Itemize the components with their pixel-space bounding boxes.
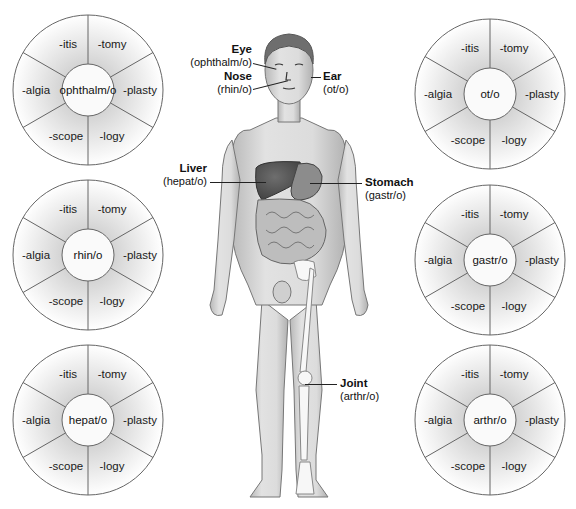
liver-leader-line (210, 182, 266, 183)
wheel-root: gastr/o (472, 254, 507, 266)
callout-ear-name: Ear (323, 70, 349, 83)
suffix-logy: -logy (502, 300, 527, 312)
suffix-logy: -logy (100, 295, 125, 307)
word-wheel-ear: -itis -tomy -algia -plasty -scope -logy … (414, 18, 566, 170)
suffix-algia: -algia (22, 84, 50, 96)
suffix-scope: -scope (451, 460, 486, 472)
wheel-root: arthr/o (473, 414, 506, 426)
wheel-root: hepat/o (69, 414, 107, 426)
callout-ear-root: (ot/o) (323, 83, 349, 96)
suffix-tomy: -tomy (500, 368, 529, 380)
suffix-plasty: -plasty (123, 414, 157, 426)
suffix-algia: -algia (22, 249, 50, 261)
suffix-logy: -logy (502, 460, 527, 472)
callout-eye-name: Eye (190, 43, 252, 56)
suffix-tomy: -tomy (98, 38, 127, 50)
suffix-itis: -itis (59, 368, 77, 380)
suffix-itis: -itis (461, 208, 479, 220)
callout-eye: Eye (ophthalm/o) (190, 43, 252, 69)
suffix-itis: -itis (461, 368, 479, 380)
suffix-itis: -itis (59, 203, 77, 215)
suffix-scope: -scope (49, 130, 84, 142)
callout-liver-name: Liver (163, 162, 207, 175)
suffix-logy: -logy (502, 134, 527, 146)
callout-nose-name: Nose (217, 70, 252, 83)
word-wheel-joint: -itis -tomy -algia -plasty -scope -logy … (414, 344, 566, 496)
suffix-algia: -algia (22, 414, 50, 426)
callout-stomach-root: (gastr/o) (365, 189, 414, 202)
suffix-tomy: -tomy (500, 208, 529, 220)
suffix-scope: -scope (49, 295, 84, 307)
callout-liver-root: (hepat/o) (163, 175, 207, 188)
callout-liver: Liver (hepat/o) (163, 162, 207, 188)
suffix-scope: -scope (49, 460, 84, 472)
suffix-plasty: -plasty (525, 254, 559, 266)
callout-eye-root: (ophthalm/o) (190, 56, 252, 69)
word-wheel-eye: -itis -tomy -algia -plasty -scope -logy … (12, 14, 164, 166)
suffix-algia: -algia (424, 414, 452, 426)
stomach-leader-line (310, 183, 362, 184)
suffix-scope: -scope (451, 300, 486, 312)
suffix-algia: -algia (424, 88, 452, 100)
wheel-root: rhin/o (74, 249, 103, 261)
suffix-itis: -itis (461, 42, 479, 54)
callout-nose-root: (rhin/o) (217, 83, 252, 96)
suffix-plasty: -plasty (525, 88, 559, 100)
suffix-logy: -logy (100, 130, 125, 142)
wheel-root: ophthalm/o (60, 84, 117, 96)
callout-stomach-name: Stomach (365, 176, 414, 189)
suffix-tomy: -tomy (500, 42, 529, 54)
wheel-root: ot/o (480, 88, 499, 100)
suffix-plasty: -plasty (123, 84, 157, 96)
suffix-tomy: -tomy (98, 203, 127, 215)
callout-ear: Ear (ot/o) (323, 70, 349, 96)
body (210, 36, 368, 497)
callout-nose: Nose (rhin/o) (217, 70, 252, 96)
ear-leader-line (311, 77, 321, 78)
suffix-scope: -scope (451, 134, 486, 146)
suffix-algia: -algia (424, 254, 452, 266)
suffix-itis: -itis (59, 38, 77, 50)
word-wheel-nose: -itis -tomy -algia -plasty -scope -logy … (12, 179, 164, 331)
suffix-plasty: -plasty (525, 414, 559, 426)
callout-joint-root: (arthr/o) (340, 390, 379, 403)
callout-stomach: Stomach (gastr/o) (365, 176, 414, 202)
suffix-tomy: -tomy (98, 368, 127, 380)
callout-joint: Joint (arthr/o) (340, 377, 379, 403)
joint-leader-line (305, 384, 337, 385)
word-wheel-liver: -itis -tomy -algia -plasty -scope -logy … (12, 344, 164, 496)
suffix-logy: -logy (100, 460, 125, 472)
callout-joint-name: Joint (340, 377, 379, 390)
word-wheel-stomach: -itis -tomy -algia -plasty -scope -logy … (414, 184, 566, 336)
suffix-plasty: -plasty (123, 249, 157, 261)
